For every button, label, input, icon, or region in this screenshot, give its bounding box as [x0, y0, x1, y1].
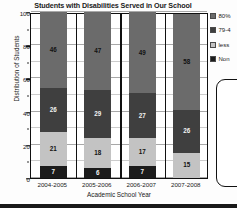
category-separator: [120, 14, 122, 178]
bar-segment[interactable]: 17: [129, 138, 156, 166]
chart-legend: 80%79-4lessNon: [210, 12, 237, 70]
bar-segment[interactable]: 26: [173, 110, 200, 153]
bar-value-label: 58: [183, 59, 190, 65]
bar-value-label: 6: [96, 170, 100, 176]
plot-area: 721264661829477172749152658: [30, 13, 208, 179]
bar-value-label: 15: [183, 162, 190, 168]
y-tick-mark: [27, 162, 29, 163]
legend-swatch-icon: [210, 42, 216, 48]
bar-value-label: 26: [50, 107, 57, 113]
bar-segment[interactable]: 27: [129, 93, 156, 138]
callout-bracket: [216, 79, 237, 187]
legend-label: less: [219, 42, 230, 48]
y-tick-mark: [26, 178, 30, 179]
bar-segment[interactable]: 49: [129, 12, 156, 93]
bar-value-label: 7: [140, 169, 144, 175]
y-tick-mark: [27, 29, 29, 30]
bar-segment[interactable]: 58: [173, 14, 200, 110]
bar-group[interactable]: 7172749: [129, 14, 156, 178]
bar-segment[interactable]: 21: [40, 132, 67, 167]
bar-value-label: 27: [139, 113, 146, 119]
bar-segment[interactable]: 6: [84, 168, 111, 178]
chart-title: Students with Disabilities Served in Our…: [18, 1, 208, 10]
x-axis-title: Academic School Year: [30, 191, 208, 198]
bar-segment[interactable]: 29: [84, 90, 111, 138]
category-separator: [76, 14, 78, 178]
x-tick-label: 2007-2008: [158, 181, 214, 188]
legend-item[interactable]: 80%: [210, 12, 237, 19]
y-tick-mark: [26, 12, 30, 13]
bar-value-label: 7: [51, 169, 55, 175]
bar-group[interactable]: 7212646: [40, 14, 67, 178]
bar-value-label: 21: [50, 146, 57, 152]
page-bottom-edge: [0, 204, 237, 208]
bar-value-label: 18: [94, 150, 101, 156]
y-axis: Distribution of Students 020406080100: [0, 13, 30, 179]
bar-value-label: 47: [94, 48, 101, 54]
legend-swatch-icon: [210, 56, 216, 62]
y-tick-mark: [26, 45, 30, 46]
bar-segment[interactable]: 26: [40, 88, 67, 131]
y-tick-mark: [26, 145, 30, 146]
bar-value-label: 17: [139, 149, 146, 155]
category-separator: [165, 14, 167, 178]
bar-segment[interactable]: 7: [40, 166, 67, 178]
chart-container: Students with Disabilities Served in Our…: [0, 0, 237, 208]
bar-value-label: 29: [94, 111, 101, 117]
bar-segment[interactable]: 7: [129, 166, 156, 178]
legend-label: 80%: [219, 13, 231, 19]
legend-swatch-icon: [210, 13, 216, 19]
bar-value-label: 26: [183, 128, 190, 134]
bar-segment[interactable]: 46: [40, 12, 67, 88]
legend-item[interactable]: 79-4: [210, 27, 237, 34]
y-tick-mark: [27, 129, 29, 130]
bar-group[interactable]: 152658: [173, 14, 200, 178]
y-axis-title: Distribution of Students: [13, 14, 20, 124]
y-tick-mark: [26, 112, 30, 113]
legend-swatch-icon: [210, 27, 216, 33]
legend-item[interactable]: Non: [210, 56, 237, 63]
bar-segment[interactable]: 15: [173, 153, 200, 178]
bar-segment[interactable]: 47: [84, 12, 111, 90]
bars-layer: 721264661829477172749152658: [31, 14, 207, 178]
bar-segment[interactable]: 18: [84, 138, 111, 168]
bar-group[interactable]: 6182947: [84, 14, 111, 178]
bar-value-label: 46: [50, 47, 57, 53]
y-tick-mark: [26, 79, 30, 80]
bar-value-label: 49: [139, 50, 146, 56]
legend-item[interactable]: less: [210, 41, 237, 48]
y-tick-mark: [27, 96, 29, 97]
y-tick-mark: [27, 62, 29, 63]
legend-label: Non: [219, 56, 230, 62]
legend-label: 79-4: [219, 27, 231, 33]
